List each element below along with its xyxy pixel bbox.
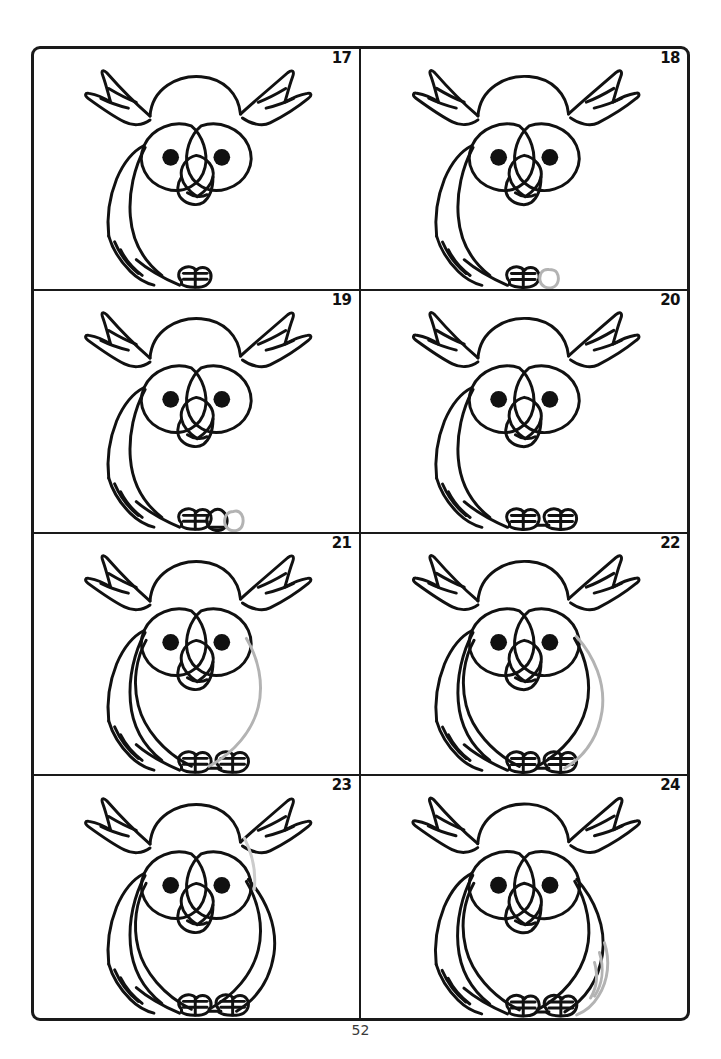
- panel-number-19: 19: [332, 293, 352, 308]
- owl-drawing-step-18: [361, 49, 688, 289]
- owl-drawing-step-22: [361, 534, 688, 774]
- owl-drawing-step-19: [34, 291, 359, 531]
- owl-drawing-step-23: [34, 776, 359, 1018]
- panel-number-18: 18: [660, 51, 680, 66]
- owl-drawing-step-21: [34, 534, 359, 774]
- panel-grid: 17: [34, 49, 687, 1018]
- owl-drawing-step-17: [34, 49, 359, 289]
- panel-number-20: 20: [660, 293, 680, 308]
- new-stroke-gray: [539, 269, 558, 287]
- drawing-tutorial-page: 17: [0, 0, 721, 1059]
- step-panel-18: 18: [361, 49, 688, 291]
- panel-number-22: 22: [660, 536, 680, 551]
- step-panel-17: 17: [34, 49, 361, 291]
- owl-drawing-step-24: [361, 776, 688, 1018]
- step-panel-20: 20: [361, 291, 688, 533]
- panel-number-21: 21: [332, 536, 352, 551]
- panel-number-17: 17: [332, 51, 352, 66]
- step-panel-19: 19: [34, 291, 361, 533]
- step-panel-21: 21: [34, 534, 361, 776]
- step-panel-23: 23: [34, 776, 361, 1018]
- page-number: 52: [0, 1022, 721, 1038]
- new-stroke-gray: [209, 638, 260, 766]
- panel-sheet-frame: 17: [31, 46, 690, 1021]
- step-panel-24: 24: [361, 776, 688, 1018]
- panel-number-23: 23: [332, 778, 352, 793]
- owl-drawing-step-20: [361, 291, 688, 531]
- panel-number-24: 24: [660, 778, 680, 793]
- step-panel-22: 22: [361, 534, 688, 776]
